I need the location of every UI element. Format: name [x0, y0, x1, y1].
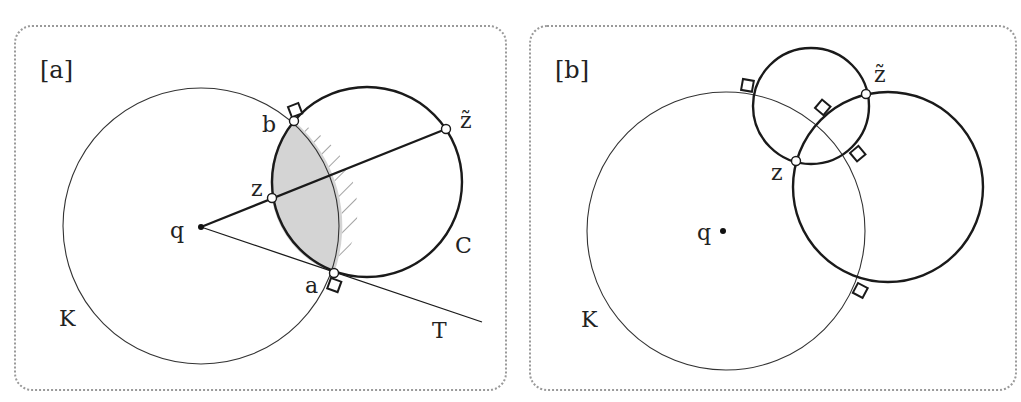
point-q — [198, 224, 204, 230]
label-z-tilde: z̃ — [460, 108, 472, 133]
label-K: K — [59, 306, 76, 331]
point-q-b — [720, 228, 726, 234]
right-angle-mark-small-top — [741, 79, 754, 92]
label-q-b: q — [697, 220, 711, 245]
label-C: C — [455, 233, 472, 258]
right-angle-mark-big-bottom — [853, 283, 868, 298]
label-b: b — [262, 112, 276, 137]
label-q: q — [170, 218, 184, 243]
label-T: T — [432, 318, 447, 343]
label-z-b: z — [771, 160, 783, 185]
point-z-tilde — [442, 125, 451, 134]
label-z: z — [251, 176, 263, 201]
point-z — [268, 194, 277, 203]
label-K-b: K — [581, 307, 598, 332]
point-a — [330, 269, 339, 278]
circle-big — [793, 92, 983, 282]
panel-a-label: [a] — [40, 56, 73, 84]
right-angle-mark-b — [288, 103, 302, 117]
circle-small — [753, 48, 869, 164]
diagram-canvas: [a] q K b z z̃ a C T [b] — [0, 0, 1021, 402]
label-a: a — [305, 273, 318, 298]
panel-b-label: [b] — [555, 56, 589, 84]
panel-a: [a] q K b z z̃ a C T — [40, 56, 482, 364]
panel-b: [b] q K z z̃ — [555, 48, 983, 370]
point-b — [290, 117, 299, 126]
shaded-lens — [271, 121, 343, 273]
right-angle-mark-a — [327, 278, 341, 292]
point-z-tilde-b — [862, 90, 871, 99]
point-z-b — [792, 157, 801, 166]
label-z-tilde-b: z̃ — [874, 62, 886, 87]
